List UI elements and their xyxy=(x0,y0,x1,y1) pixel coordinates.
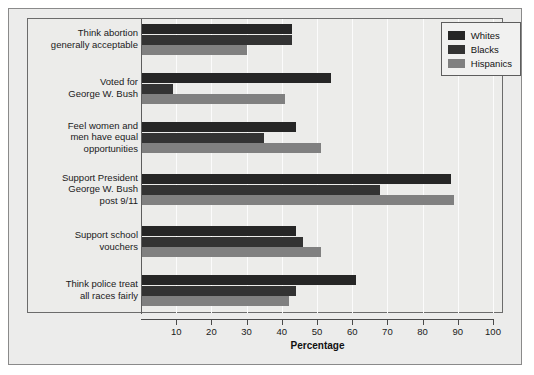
bar-blacks-group-4 xyxy=(141,237,303,247)
bar-whites-group-0 xyxy=(141,24,292,34)
chart-legend[interactable]: Whites Blacks Hispanics xyxy=(441,22,521,76)
legend-label-hispanics: Hispanics xyxy=(471,58,512,69)
x-tick xyxy=(458,320,459,325)
x-tick xyxy=(211,320,212,325)
category-label-1: Voted forGeorge W. Bush xyxy=(28,76,138,99)
bar-hispanics-group-0 xyxy=(141,45,247,55)
bar-hispanics-group-3 xyxy=(141,195,454,205)
bar-whites-group-2 xyxy=(141,122,296,132)
chart-figure: Think abortiongenerally acceptableVoted … xyxy=(0,0,534,375)
category-label-line: post 9/11 xyxy=(28,195,138,207)
legend-label-blacks: Blacks xyxy=(471,44,499,55)
category-label-line: all races fairly xyxy=(28,290,138,302)
gridline xyxy=(423,19,424,313)
legend-swatch-icon-blacks xyxy=(448,45,465,54)
gridline xyxy=(317,19,318,313)
gridline xyxy=(176,19,177,313)
x-tick xyxy=(352,320,353,325)
y-axis-line xyxy=(141,19,142,314)
category-label-line: George W. Bush xyxy=(28,183,138,195)
bar-hispanics-group-4 xyxy=(141,247,321,257)
category-label-line: Support school xyxy=(28,229,138,241)
x-tick xyxy=(176,320,177,325)
x-tick-label: 60 xyxy=(337,326,367,337)
gridline xyxy=(352,19,353,313)
gridline xyxy=(211,19,212,313)
x-tick xyxy=(387,320,388,325)
x-tick-label: 10 xyxy=(161,326,191,337)
bar-whites-group-3 xyxy=(141,174,451,184)
category-label-line: opportunities xyxy=(28,143,138,155)
category-label-line: generally acceptable xyxy=(28,39,138,51)
category-label-line: vouchers xyxy=(28,241,138,253)
category-label-column: Think abortiongenerally acceptableVoted … xyxy=(28,19,138,313)
category-label-line: Think abortion xyxy=(28,27,138,39)
x-tick xyxy=(423,320,424,325)
legend-swatch-icon-whites xyxy=(448,31,465,40)
category-label-5: Think police treatall races fairly xyxy=(28,278,138,301)
category-label-0: Think abortiongenerally acceptable xyxy=(28,27,138,50)
gridline xyxy=(387,19,388,313)
gridline xyxy=(282,19,283,313)
bar-whites-group-5 xyxy=(141,275,356,285)
bar-hispanics-group-5 xyxy=(141,296,289,306)
x-tick-label: 20 xyxy=(196,326,226,337)
x-tick-label: 90 xyxy=(443,326,473,337)
category-label-line: men have equal xyxy=(28,131,138,143)
category-label-2: Feel women andmen have equalopportunitie… xyxy=(28,120,138,155)
x-tick-label: 70 xyxy=(372,326,402,337)
x-tick xyxy=(317,320,318,325)
bar-hispanics-group-2 xyxy=(141,143,321,153)
x-tick xyxy=(493,320,494,325)
category-label-line: George W. Bush xyxy=(28,88,138,100)
category-label-4: Support schoolvouchers xyxy=(28,229,138,252)
category-label-line: Think police treat xyxy=(28,278,138,290)
legend-label-whites: Whites xyxy=(471,30,500,41)
category-label-3: Support PresidentGeorge W. Bushpost 9/11 xyxy=(28,172,138,207)
bar-blacks-group-5 xyxy=(141,286,296,296)
category-label-line: Support President xyxy=(28,172,138,184)
bar-whites-group-4 xyxy=(141,226,296,236)
bar-blacks-group-0 xyxy=(141,35,292,45)
bar-whites-group-1 xyxy=(141,73,331,83)
bar-hispanics-group-1 xyxy=(141,94,285,104)
x-tick xyxy=(247,320,248,325)
x-tick xyxy=(282,320,283,325)
legend-swatch-icon-hispanics xyxy=(448,59,465,68)
legend-item-whites[interactable]: Whites xyxy=(448,28,512,42)
legend-item-hispanics[interactable]: Hispanics xyxy=(448,56,512,70)
x-axis-title: Percentage xyxy=(141,340,494,351)
x-tick-label: 40 xyxy=(267,326,297,337)
legend-item-blacks[interactable]: Blacks xyxy=(448,42,512,56)
bar-blacks-group-2 xyxy=(141,133,264,143)
bar-blacks-group-3 xyxy=(141,185,380,195)
x-tick-label: 100 xyxy=(478,326,508,337)
category-label-line: Voted for xyxy=(28,76,138,88)
bar-blacks-group-1 xyxy=(141,84,173,94)
x-tick-label: 80 xyxy=(408,326,438,337)
category-label-line: Feel women and xyxy=(28,120,138,132)
x-tick-label: 30 xyxy=(232,326,262,337)
gridline xyxy=(247,19,248,313)
x-tick-label: 50 xyxy=(302,326,332,337)
